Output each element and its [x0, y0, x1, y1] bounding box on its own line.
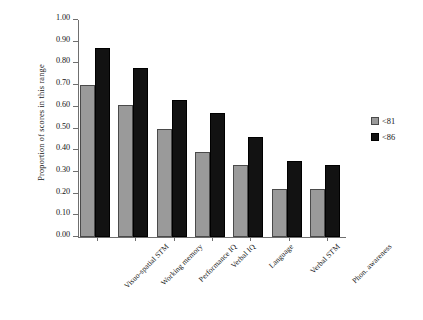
y-tick-label: 0.60 [56, 100, 70, 109]
bar-high [133, 68, 148, 237]
legend-swatch-low [371, 117, 379, 125]
x-tick [212, 237, 213, 241]
x-axis-label: Language [267, 242, 295, 270]
y-tick-label: 0.90 [56, 35, 70, 44]
y-tick-0.40: 0.40 [73, 149, 78, 150]
y-tick-label: 0.20 [56, 187, 70, 196]
bar-high [210, 113, 225, 237]
bar-high [172, 100, 187, 237]
y-tick-0.10: 0.10 [73, 214, 78, 215]
bar-group [310, 20, 340, 237]
y-tick-0.30: 0.30 [73, 171, 78, 172]
bar-high [287, 161, 302, 237]
bar-low [80, 85, 95, 237]
legend-label: <86 [382, 133, 395, 142]
y-tick-label: 0.30 [56, 165, 70, 174]
bar-chart-figure: Proportion of scores in this range 0.000… [0, 0, 423, 320]
bar-high [248, 137, 263, 237]
y-tick-label: 0.40 [56, 143, 70, 152]
x-axis-label: Verbal STM [308, 242, 341, 275]
y-tick-label: 0.80 [56, 56, 70, 65]
y-tick-label: 0.00 [56, 230, 70, 239]
y-tick-0.80: 0.80 [73, 62, 78, 63]
y-tick-0.70: 0.70 [73, 84, 78, 85]
y-axis-line [78, 20, 79, 237]
bar-low [118, 105, 133, 237]
plot-area: 0.000.100.200.300.400.500.600.700.800.90… [78, 20, 346, 237]
y-axis-title: Proportion of scores in this range [37, 13, 46, 233]
legend-item: <86 [371, 129, 395, 145]
bar-low [195, 152, 210, 237]
y-tick-label: 0.10 [56, 208, 70, 217]
legend-item: <81 [371, 113, 395, 129]
y-tick-label: 0.50 [56, 122, 70, 131]
y-tick-label: 0.70 [56, 78, 70, 87]
y-tick-0.60: 0.60 [73, 106, 78, 107]
bar-high [325, 165, 340, 237]
bar-group [272, 20, 302, 237]
bar-group [157, 20, 187, 237]
bar-low [310, 189, 325, 237]
bar-low [233, 165, 248, 237]
bar-high [95, 48, 110, 237]
bar-low [272, 189, 287, 237]
y-tick-1.00: 1.00 [73, 19, 78, 20]
bar-group [80, 20, 110, 237]
x-tick [97, 237, 98, 241]
y-tick-0.90: 0.90 [73, 41, 78, 42]
legend-swatch-high [371, 133, 379, 141]
x-tick [174, 237, 175, 241]
legend-label: <81 [382, 117, 395, 126]
y-tick-0.20: 0.20 [73, 193, 78, 194]
chart-legend: <81<86 [371, 113, 395, 145]
bar-group [233, 20, 263, 237]
y-tick-0.00: 0.00 [73, 236, 78, 237]
bar-group [118, 20, 148, 237]
bar-group [195, 20, 225, 237]
x-tick [289, 237, 290, 241]
y-tick-0.50: 0.50 [73, 128, 78, 129]
y-tick-label: 1.00 [56, 13, 70, 22]
x-tick [135, 237, 136, 241]
x-tick [327, 237, 328, 241]
x-axis-label: Phon. awareness [350, 242, 393, 285]
bar-low [157, 129, 172, 238]
